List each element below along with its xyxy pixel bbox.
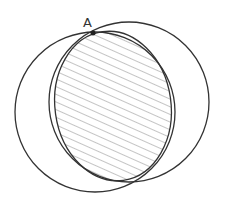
point-a — [91, 31, 96, 36]
hatched-ellipse — [45, 24, 181, 189]
geometry-diagram: A — [0, 0, 225, 204]
point-a-label: A — [83, 15, 92, 30]
